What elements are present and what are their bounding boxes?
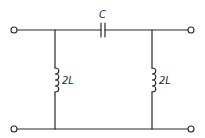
terminal-bottom-left <box>11 126 17 132</box>
circuit-diagram: C 2L 2L <box>0 0 205 138</box>
left-inductor-label: 2L <box>62 75 74 86</box>
left-inductor-symbol <box>55 68 59 92</box>
right-inductor-symbol <box>152 68 156 92</box>
right-inductor-label: 2L <box>159 75 171 86</box>
terminal-top-right <box>188 27 194 33</box>
terminal-top-left <box>11 27 17 33</box>
capacitor-label: C <box>99 9 106 20</box>
terminal-bottom-right <box>188 126 194 132</box>
